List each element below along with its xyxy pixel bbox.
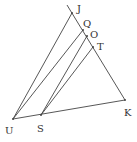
- segment-uj: [13, 13, 72, 119]
- label-o: O: [90, 29, 98, 40]
- segment-uk: [13, 100, 125, 119]
- label-t: T: [97, 41, 104, 52]
- segment-st: [41, 47, 93, 115]
- line-jk: [67, 5, 125, 100]
- label-u: U: [5, 125, 13, 136]
- label-q: Q: [83, 18, 91, 29]
- label-j: J: [76, 3, 81, 14]
- point-j: [71, 12, 73, 14]
- point-u: [12, 118, 14, 120]
- label-k: K: [124, 107, 132, 118]
- label-s: S: [37, 123, 44, 134]
- point-t: [92, 46, 94, 48]
- point-s: [40, 114, 42, 116]
- segment-so: [41, 36, 87, 115]
- point-q: [82, 29, 84, 31]
- geometry-diagram: J Q O T K U S: [0, 0, 137, 142]
- point-k: [124, 99, 126, 101]
- point-o: [86, 35, 88, 37]
